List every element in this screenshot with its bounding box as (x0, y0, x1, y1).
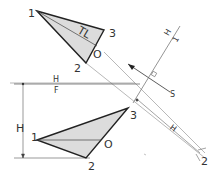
front-vertex-3-label: 3 (130, 109, 137, 122)
top-point-o-label: O (93, 48, 102, 61)
top-vertex-1-label: 1 (28, 7, 35, 20)
sight-direction-label: S (170, 90, 175, 99)
height-dim-label: H (16, 122, 24, 135)
top-vertex-3-label: 3 (109, 27, 116, 40)
edge-dim-label: H (168, 123, 178, 134)
sight-direction-arrow (128, 64, 170, 92)
front-vertex-1-label: 1 (31, 131, 38, 144)
aux-fold-lower-label: 1 (171, 35, 181, 44)
stray-mark (144, 154, 146, 155)
fold-f-label: F (54, 86, 59, 95)
fold-h-label: H (53, 75, 59, 84)
front-view-triangle (37, 108, 128, 158)
edge-point-2-label: 2 (201, 155, 208, 168)
diagram-canvas: 1 2 3 O TL S H 1 H 2 H F H (0, 0, 223, 173)
front-point-o-label: O (104, 138, 113, 151)
front-vertex-2-label: 2 (88, 160, 95, 173)
top-vertex-2-label: 2 (74, 62, 81, 75)
